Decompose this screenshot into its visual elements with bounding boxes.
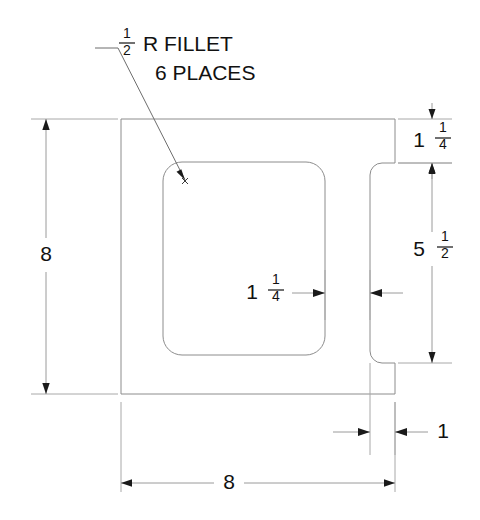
dimension-pocket-wall-numerator: 1 xyxy=(272,271,280,287)
dimension-pocket-wall-denominator: 4 xyxy=(272,288,280,304)
dimension-right-lower-numerator: 1 xyxy=(441,228,449,244)
note-frac-denominator: 2 xyxy=(123,42,131,58)
part-outer-outline xyxy=(121,119,395,394)
dimension-slot-width-label: 1 xyxy=(437,419,449,442)
part-inner-pocket xyxy=(163,162,325,355)
note-line-1: R FILLET xyxy=(143,32,233,55)
dimension-right-lower-denominator: 2 xyxy=(441,245,449,261)
dimension-slot-width: 1 xyxy=(333,363,449,455)
note-fraction-half: 1 2 xyxy=(119,25,135,58)
dimension-left-height-label: 8 xyxy=(40,242,52,265)
dimension-bottom-width: 8 xyxy=(121,402,395,498)
dimension-pocket-wall-text: 1 1 4 xyxy=(246,271,284,304)
dimension-right-top-denominator: 4 xyxy=(439,136,447,152)
dimension-right-lower: 5 1 2 xyxy=(398,163,456,363)
engineering-drawing-canvas: 1 2 R FILLET 6 PLACES 8 8 1 xyxy=(0,0,480,520)
dimension-right-top: 1 1 4 xyxy=(398,103,452,179)
dimension-right-top-numerator: 1 xyxy=(439,119,447,135)
dimension-pocket-wall-whole: 1 xyxy=(246,280,258,303)
note-line-2: 6 PLACES xyxy=(155,61,255,84)
dimension-left-height: 8 xyxy=(31,119,118,394)
dimension-pocket-wall: 1 1 4 xyxy=(246,270,403,320)
dimension-right-top-text: 1 1 4 xyxy=(413,119,451,152)
dimension-right-lower-whole: 5 xyxy=(413,237,425,260)
fillet-note-text: 1 2 R FILLET 6 PLACES xyxy=(119,25,255,84)
note-frac-numerator: 1 xyxy=(123,25,131,41)
dimension-bottom-width-label: 8 xyxy=(223,470,235,493)
dimension-right-top-whole: 1 xyxy=(413,128,425,151)
